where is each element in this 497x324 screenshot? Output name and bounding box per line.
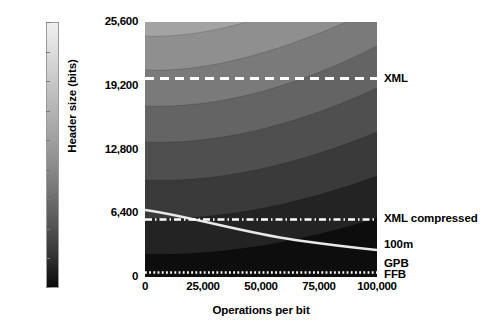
colorbar-tick xyxy=(46,111,50,112)
colorbar-tick xyxy=(46,199,50,200)
x-axis-title: Operations per bit xyxy=(145,304,377,316)
colorbar-tick xyxy=(46,287,50,288)
colorbar-tick xyxy=(46,170,50,171)
y-axis-title: Header size (bits) xyxy=(66,26,78,186)
colorbar-tick xyxy=(46,140,50,141)
y-tick-label-12800: 12,800 xyxy=(78,144,138,156)
colorbar-tick xyxy=(46,258,50,259)
annotation-label-xml: XML xyxy=(384,73,408,85)
contour-plot-area xyxy=(145,22,377,277)
y-tick-label-25600: 25,600 xyxy=(78,16,138,28)
annotation-label-ffb: FFB xyxy=(384,269,406,281)
y-tick-label-19200: 19,200 xyxy=(78,80,138,92)
colorbar-tick xyxy=(46,52,50,53)
contour-bands-group xyxy=(145,22,377,277)
colorbar-gradient-strip xyxy=(46,22,59,288)
x-tick-label-100000: 100,000 xyxy=(342,281,412,293)
colorbar-tick xyxy=(46,229,50,230)
colorbar-tick xyxy=(46,22,50,23)
y-tick-label-6400: 6,400 xyxy=(78,207,138,219)
colorbar-tick xyxy=(46,81,50,82)
annotation-label-100m: 100m xyxy=(384,239,413,251)
contour-plot-svg xyxy=(145,22,377,277)
annotation-label-xml-compressed: XML compressed xyxy=(384,213,478,225)
